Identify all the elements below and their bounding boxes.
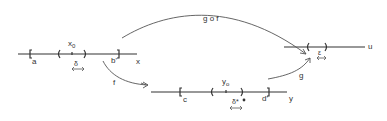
x-right-bracket-label: b' [111,57,117,65]
y-left-bracket-label: c [183,96,187,104]
delta-star-label: δ* [232,98,239,105]
delta-star-double-arrow-icon [230,106,242,110]
y-axis-label: y [289,95,293,103]
x-axis-label: x [136,58,140,66]
g-arrow [268,58,310,79]
f-label: f [113,79,115,87]
delta-label: δ [74,60,78,67]
delta-double-arrow-icon [72,67,84,71]
f-arrow [103,61,148,88]
composition-diagram: a b' x x0 δ c d' y yo δ* u ε g o f f g [0,0,387,121]
x0-label: x0 [68,40,75,48]
y-right-bracket-label: d' [262,95,268,103]
x0-label-subscript: 0 [72,43,75,49]
y-dot [243,99,246,102]
epsilon-double-arrow-icon [317,56,326,60]
y0-label: yo [222,78,229,86]
x-left-bracket-label: a [32,58,36,66]
gof-label: g o f [203,15,219,23]
u-axis-label: u [368,43,372,51]
epsilon-label: ε [318,49,321,56]
g-label: g [299,72,303,80]
y0-label-subscript: o [226,81,229,87]
